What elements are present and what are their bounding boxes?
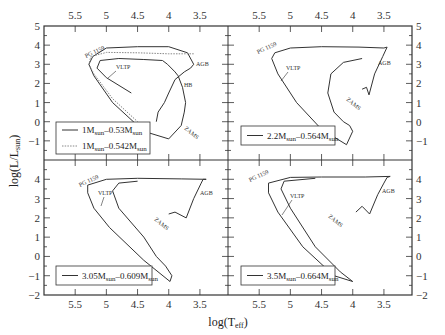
y-tick-label: 3 <box>416 58 422 70</box>
y-tick-label: −1 <box>416 270 428 282</box>
x-tick-label: 4 <box>350 9 356 21</box>
y-tick-label: 2 <box>35 77 41 89</box>
annotation-arrow <box>108 71 116 78</box>
x-tick-label: 4.5 <box>131 298 145 310</box>
annotation-label: PG 1159 <box>78 174 100 188</box>
annotation-label: AGB <box>196 61 209 67</box>
annotation-label: PG 1159 <box>256 41 278 55</box>
y-tick-label: −2 <box>416 289 428 301</box>
legend: 2.2Msun–0.564Msun <box>241 126 339 145</box>
annotation-label: AGB <box>200 190 213 196</box>
y-tick-label: 1 <box>416 97 422 109</box>
annotation-label: AGB <box>378 60 391 66</box>
y-tick-label: 4 <box>416 39 422 51</box>
x-tick-label: 5 <box>104 9 110 21</box>
y-tick-label: 3 <box>35 193 41 205</box>
y-tick-label: 4 <box>35 39 41 51</box>
y-tick-label: 2 <box>416 77 422 89</box>
x-axis-title: log(Teff) <box>208 315 247 330</box>
annotation-label: VLTP <box>286 65 301 71</box>
x-tick-label: 4 <box>166 9 172 21</box>
x-tick-label: 5.5 <box>68 9 82 21</box>
y-tick-label: 3 <box>35 58 41 70</box>
x-tick-label: 5.5 <box>252 298 266 310</box>
x-tick-label: 5 <box>288 9 294 21</box>
x-tick-label: 4.5 <box>315 9 329 21</box>
y-tick-label: 3 <box>416 193 422 205</box>
y-tick-label: 0 <box>416 250 422 262</box>
x-tick-label: 4 <box>350 298 356 310</box>
y-tick-label: 2 <box>416 212 422 224</box>
x-tick-label: 3.5 <box>193 9 207 21</box>
y-tick-label: 4 <box>416 173 422 185</box>
x-tick-label: 4 <box>166 298 172 310</box>
annotation-label: PG 1159 <box>84 45 106 59</box>
x-tick-label: 3.5 <box>377 298 391 310</box>
y-tick-label: 5 <box>35 20 41 32</box>
hr-diagram-figure: 5.554.543.5543210−1PG 1159VLTPAGBHBZAMS5… <box>0 0 445 335</box>
track-line <box>89 52 194 121</box>
y-axis-title: log(L/Lsun) <box>7 135 22 187</box>
annotation-label: ZAMS <box>183 125 200 140</box>
y-tick-label: 0 <box>35 116 41 128</box>
x-tick-label: 3.5 <box>193 298 207 310</box>
annotation-label: VLTP <box>98 190 113 196</box>
panel-bottom-right: 5.554.543.543210−1−2PG 1159VLTPAGBZAMS <box>228 160 428 310</box>
annotation-label: VLTP <box>116 64 131 70</box>
y-tick-label: −1 <box>416 135 428 147</box>
y-tick-label: 0 <box>35 250 41 262</box>
y-tick-label: −2 <box>28 289 40 301</box>
x-tick-label: 3.5 <box>377 9 391 21</box>
y-tick-label: −1 <box>28 135 40 147</box>
panel-bottom-left: 5.554.543.543210−1−2PG 1159VLTPAGBZAMS <box>28 160 228 310</box>
annotation-label: HB <box>184 82 192 88</box>
y-tick-label: 5 <box>416 20 422 32</box>
y-tick-label: 2 <box>35 212 41 224</box>
y-tick-label: 1 <box>416 231 422 243</box>
y-tick-label: 4 <box>35 173 41 185</box>
y-tick-label: 1 <box>35 231 41 243</box>
y-tick-label: −1 <box>28 270 40 282</box>
x-tick-label: 5 <box>104 298 110 310</box>
x-tick-label: 4.5 <box>131 9 145 21</box>
x-tick-label: 5 <box>288 298 294 310</box>
annotation-arrow <box>281 72 288 81</box>
legend: 3.5Msun–0.664Msun <box>241 266 339 285</box>
panels: 5.554.543.5543210−1PG 1159VLTPAGBHBZAMS5… <box>28 9 427 310</box>
x-tick-label: 5.5 <box>252 9 266 21</box>
annotation-label: PG 1159 <box>248 169 270 183</box>
y-tick-label: 0 <box>416 116 422 128</box>
annotation-label: ZAMS <box>153 216 170 231</box>
x-tick-label: 4.5 <box>315 298 329 310</box>
x-tick-label: 5.5 <box>68 298 82 310</box>
annotation-label: VLTP <box>290 193 305 199</box>
annotation-label: AGB <box>382 188 395 194</box>
legend: 1Msun–0.53Msun1Msun–0.542Msun <box>56 122 150 154</box>
annotation-label: ZAMS <box>327 213 344 228</box>
legend: 3.05Msun–0.609Msun <box>56 266 158 285</box>
annotation-label: ZAMS <box>345 96 362 111</box>
y-tick-label: 1 <box>35 97 41 109</box>
annotation-arrow <box>101 197 104 206</box>
